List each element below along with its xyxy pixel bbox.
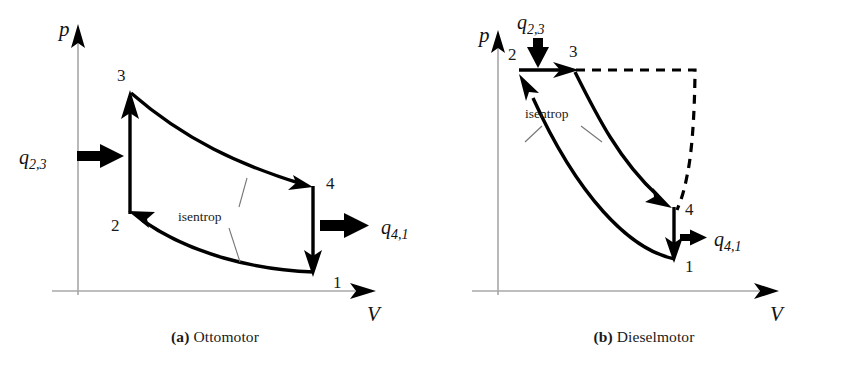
state-label-2: 2 (508, 45, 517, 64)
process-1-to-2-isentropic-compression (142, 220, 314, 272)
state-label-4: 4 (685, 200, 694, 219)
y-axis-label: p (57, 17, 70, 41)
dieselmotor-pv-diagram: p V 2 3 4 1 q (429, 0, 859, 330)
state-label-1: 1 (333, 273, 342, 292)
heat-in-label: q2,3 (517, 11, 545, 37)
figure-root: p V 3 2 4 1 q2,3 (0, 0, 859, 371)
heat-in-arrow (527, 38, 549, 68)
caption-text: Dieselmotor (617, 328, 695, 345)
x-axis-label: V (367, 302, 382, 326)
state-label-3: 3 (117, 66, 126, 85)
caption-text: Ottomotor (193, 328, 258, 345)
heat-in-label: q2,3 (19, 146, 47, 172)
isentrop-leader-right (581, 126, 602, 142)
state-label-1: 1 (685, 257, 694, 276)
panel-ottomotor: p V 3 2 4 1 q2,3 (0, 0, 430, 371)
heat-out-label: q4,1 (381, 216, 409, 242)
x-axis-label: V (770, 302, 785, 326)
caption-tag: (b) (594, 328, 613, 345)
panel-caption-ottomotor: (a)Ottomotor (0, 328, 430, 346)
heat-out-arrow (320, 213, 369, 238)
isentrop-leader-upper (239, 178, 247, 207)
panel-caption-dieselmotor: (b)Dieselmotor (429, 328, 859, 346)
ottomotor-pv-diagram: p V 3 2 4 1 q2,3 (0, 0, 430, 330)
arrowhead-process-1-to-2 (519, 74, 539, 101)
isentrop-leader-left (525, 126, 542, 142)
isentrop-label: isentrop (178, 209, 222, 224)
arrowhead-process-3-to-4 (645, 188, 672, 208)
state-label-4: 4 (326, 174, 335, 193)
panel-dieselmotor: p V 2 3 4 1 q (429, 0, 859, 371)
state-label-2: 2 (111, 216, 120, 235)
process-1-to-2-isentropic-compression (533, 98, 675, 259)
y-axis-label: p (477, 23, 490, 47)
heat-out-arrow (680, 230, 707, 246)
process-3-to-4-isentropic-expansion (131, 93, 302, 184)
caption-tag: (a) (171, 328, 189, 345)
dashed-alternative-expansion (576, 70, 695, 210)
process-3-to-4-isentropic-expansion (575, 72, 658, 196)
heat-out-label: q4,1 (714, 228, 742, 254)
isentrop-leader-lower (229, 228, 240, 262)
isentrop-label: isentrop (525, 106, 569, 121)
state-label-3: 3 (569, 42, 578, 61)
heat-in-arrow (77, 144, 124, 168)
